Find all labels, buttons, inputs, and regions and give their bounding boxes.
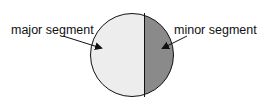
diagram-canvas: major segment minor segment [0,0,265,100]
circle-segments-figure [0,0,265,100]
minor-segment-label: minor segment [174,23,257,37]
major-segment [80,0,145,100]
minor-segment [145,0,185,100]
major-segment-label: major segment [11,23,94,37]
